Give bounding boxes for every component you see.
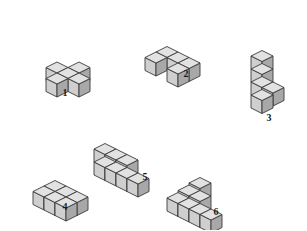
figure-label-6: 6 xyxy=(206,207,226,217)
figure-6-cubes xyxy=(167,178,222,231)
pyramid-stair-block xyxy=(0,0,307,230)
figure-6-drawing xyxy=(0,0,307,230)
illustration-canvas: 123456 xyxy=(0,0,307,230)
